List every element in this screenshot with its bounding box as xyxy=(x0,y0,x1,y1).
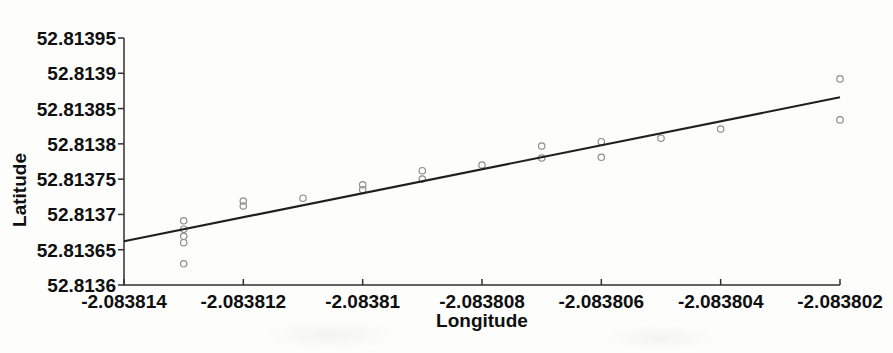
data-point xyxy=(658,135,664,141)
data-point xyxy=(181,240,187,246)
chart-figure: 52.813652.8136552.813752.8137552.813852.… xyxy=(0,0,893,353)
scatter-points xyxy=(181,76,844,267)
x-tick-label: -2.083808 xyxy=(439,291,525,312)
axes: 52.813652.8136552.813752.8137552.813852.… xyxy=(37,28,883,312)
y-tick-label: 52.81385 xyxy=(37,99,117,120)
x-tick-label: -2.083802 xyxy=(797,291,883,312)
y-axis-label: Latitude xyxy=(9,153,30,227)
y-tick-label: 52.8138 xyxy=(47,134,116,155)
x-tick-label: -2.083812 xyxy=(201,291,287,312)
data-point xyxy=(181,218,187,224)
x-tick-label: -2.083806 xyxy=(559,291,645,312)
y-tick-label: 52.81375 xyxy=(37,169,117,190)
scatter-plot: 52.813652.8136552.813752.8137552.813852.… xyxy=(0,0,893,353)
y-tick-label: 52.81395 xyxy=(37,28,117,49)
x-axis-label: Longitude xyxy=(436,310,528,331)
data-point xyxy=(479,162,485,168)
data-point xyxy=(300,195,306,201)
fit-line-group xyxy=(124,97,840,241)
y-tick-label: 52.8137 xyxy=(47,204,116,225)
data-point xyxy=(419,168,425,174)
data-point xyxy=(837,117,843,123)
data-point xyxy=(181,233,187,239)
x-tick-label: -2.08381 xyxy=(325,291,400,312)
x-tick-label: -2.083814 xyxy=(81,291,167,312)
data-point xyxy=(718,126,724,132)
y-tick-label: 52.8139 xyxy=(47,63,116,84)
data-point xyxy=(539,143,545,149)
regression-line xyxy=(124,97,840,241)
data-point xyxy=(181,261,187,267)
data-point xyxy=(598,154,604,160)
y-tick-label: 52.81365 xyxy=(37,240,117,261)
data-point xyxy=(837,76,843,82)
x-tick-label: -2.083804 xyxy=(678,291,764,312)
